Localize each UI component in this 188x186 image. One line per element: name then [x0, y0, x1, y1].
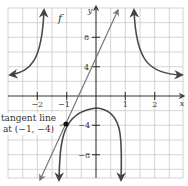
x-tick-label: 1	[123, 100, 128, 109]
x-tick-label: 2	[152, 100, 157, 109]
tangent-label-line1: tangent line	[1, 113, 56, 123]
y-tick-label: −8	[78, 151, 90, 160]
tangent-point	[63, 121, 68, 126]
y-axis-label: y	[87, 6, 93, 15]
tangent-label-line2: at (−1, −4)	[3, 124, 54, 134]
f-right-branch	[134, 10, 182, 75]
x-axis-label: x	[180, 99, 185, 108]
y-tick-label: −4	[78, 121, 90, 130]
x-tick-label: −2	[31, 100, 43, 109]
axes	[8, 6, 184, 178]
x-tick-label: −1	[58, 100, 70, 109]
f-left-branch	[10, 10, 44, 75]
y-tick-label: 8	[84, 33, 89, 42]
graph: −2 −1 1 2 8 4 −4 −8 x y f tangent line a…	[0, 0, 188, 186]
y-tick-label: 4	[84, 63, 89, 72]
